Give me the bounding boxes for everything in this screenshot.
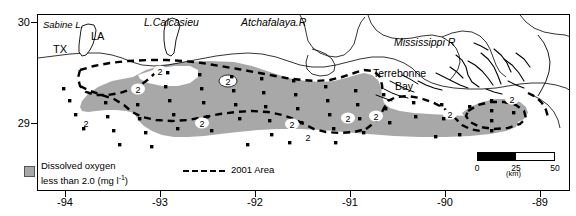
svg-text:2: 2: [447, 110, 452, 120]
legend-label-hypoxia-post: ): [125, 175, 128, 186]
scale-bar-filled-half: [478, 153, 516, 160]
x-tick-label-92: -92: [235, 196, 275, 208]
contour-label-2-a: 2: [153, 66, 167, 77]
contour-label-2-c: 2: [79, 118, 93, 129]
x-tick-mark-94: [65, 191, 66, 197]
contour-label-2-d: 2: [195, 118, 209, 129]
map-label-la: LA: [91, 31, 104, 43]
contour-label-2-g: 2: [341, 113, 355, 124]
svg-text:2: 2: [199, 119, 204, 129]
x-tick-label-94: -94: [45, 196, 85, 208]
x-tick-label-89: -89: [520, 196, 560, 208]
svg-text:2: 2: [373, 112, 378, 122]
contour-label-2-b: 2: [131, 84, 145, 95]
svg-text:2: 2: [305, 133, 310, 143]
scale-bar-unit: (km): [506, 169, 521, 178]
svg-text:2: 2: [225, 77, 230, 87]
x-tick-label-91: -91: [330, 196, 370, 208]
map-label-tx: TX: [53, 44, 67, 56]
svg-text:2: 2: [345, 114, 350, 124]
x-tick-mark-90: [445, 191, 446, 197]
contour-label-2-e: 2: [285, 119, 299, 130]
x-tick-label-90: -90: [425, 196, 465, 208]
map-label-sabine-lake: Sabine L.: [43, 20, 83, 30]
map-label-atchafalaya-river: Atchafalaya.R: [241, 17, 306, 28]
contour-label-2-i: 2: [369, 111, 383, 122]
x-tick-label-93: -93: [140, 196, 180, 208]
y-tick-label-29: 29: [6, 117, 30, 129]
legend-label-hypoxia-line2: less than 2.0 (mg l-1): [41, 172, 128, 187]
contour-label-2-f: 2: [219, 75, 237, 87]
legend-label-hypoxia-line1: Dissolved oxygen: [41, 160, 128, 172]
map-label-lake-calcasieu: L.Calcasieu: [144, 17, 199, 28]
svg-text:2: 2: [509, 95, 514, 105]
contour-label-2-k: 2: [505, 94, 519, 105]
legend-label-hypoxia-pre: less than 2.0 (mg l: [41, 175, 119, 186]
scale-bar-label-50: 50: [543, 163, 567, 173]
legend-dash-swatch: [183, 170, 225, 172]
legend-label-hypoxia: Dissolved oxygen less than 2.0 (mg l-1): [41, 160, 128, 186]
map-label-bay: Bay: [395, 81, 413, 92]
map-label-mississippi-river: Mississippi R: [394, 37, 455, 48]
delta-marsh-detail: [418, 43, 530, 94]
contour-label-2-h: 2: [301, 132, 315, 143]
x-tick-mark-93: [160, 191, 161, 197]
svg-text:2: 2: [135, 85, 140, 95]
legend-label-2001-area: 2001 Area: [231, 164, 274, 175]
scale-bar: [477, 152, 555, 161]
scale-bar-label-0: 0: [465, 163, 489, 173]
x-tick-mark-91: [350, 191, 351, 197]
chandeleur-islands: [538, 35, 550, 96]
contour-2001-far-east: [528, 93, 548, 117]
legend-swatch-hypoxia: [24, 166, 35, 177]
atchafalaya-bay-outline: [300, 15, 365, 57]
figure-root: 30 29 -94 -93 -92 -91 -90 -89: [0, 0, 576, 216]
y-tick-label-30: 30: [6, 16, 30, 28]
eastern-shoreline: [520, 15, 570, 37]
x-tick-mark-92: [255, 191, 256, 197]
x-tick-mark-89: [540, 191, 541, 197]
map-label-terrebonne: Terrebonne: [373, 68, 426, 79]
svg-text:2: 2: [289, 120, 294, 130]
svg-text:2: 2: [157, 67, 162, 77]
